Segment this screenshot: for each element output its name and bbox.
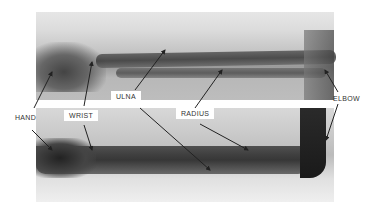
xray-bottom-view xyxy=(36,108,334,202)
label-wrist: WRIST xyxy=(64,110,98,121)
label-elbow: ELBOW xyxy=(328,93,365,104)
elbow-region-bottom xyxy=(300,108,326,178)
elbow-region xyxy=(304,30,334,100)
xray-top-view xyxy=(36,12,334,100)
hand-region-bottom xyxy=(36,138,96,178)
label-ulna: ULNA xyxy=(111,91,141,102)
hand-region xyxy=(36,42,106,92)
xray-figure: HAND WRIST ULNA RADIUS ELBOW xyxy=(0,0,367,214)
radius-bone xyxy=(116,68,326,78)
label-hand: HAND xyxy=(10,112,41,123)
ulna-bone xyxy=(96,50,336,68)
label-radius: RADIUS xyxy=(176,108,214,119)
